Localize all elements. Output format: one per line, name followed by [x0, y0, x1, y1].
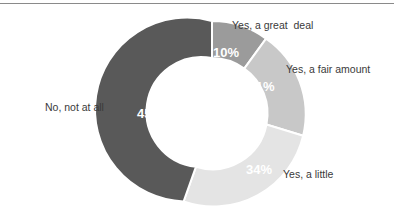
slice-label-yes-a-fair-amount: Yes, a fair amount: [286, 63, 370, 75]
slice-value-yes-a-great-deal: 10%: [213, 45, 239, 60]
slice-value-yes-a-fair-amount: 11%: [249, 79, 275, 94]
slice-value-yes-a-little: 34%: [246, 162, 272, 177]
slice-label-yes-a-little: Yes, a little: [283, 168, 333, 180]
chart-page: 10% 11% 34% 45% Yes, a great deal Yes, a…: [0, 0, 394, 218]
donut-slice-yes-a-little[interactable]: [184, 125, 304, 207]
donut-chart: 10% 11% 34% 45% Yes, a great deal Yes, a…: [0, 0, 394, 218]
slice-value-no-not-at-all: 45%: [137, 106, 163, 121]
slice-label-no-not-at-all: No, not at all: [45, 101, 104, 113]
slice-label-yes-a-great-deal: Yes, a great deal: [232, 19, 313, 31]
